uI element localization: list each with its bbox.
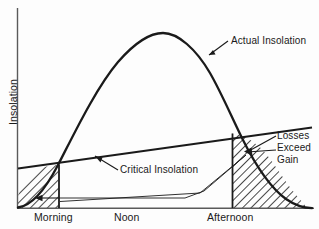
annotation-losses-line-2: Exceed (277, 142, 311, 154)
actual-insolation-curve (18, 33, 312, 208)
annotation-critical-insolation: Critical Insolation (120, 164, 198, 175)
y-axis-label: Insolation (7, 67, 19, 137)
x-tick-label-afternoon: Afternoon (207, 211, 253, 223)
annotation-losses-line-3: Gain (277, 154, 299, 166)
annotation-actual-insolation: Actual Insolation (231, 35, 306, 46)
critical-insolation-leader (95, 156, 118, 170)
x-tick-label-morning: Morning (34, 211, 73, 223)
x-tick-label-noon: Noon (114, 211, 140, 223)
insolation-diagram: Insolation Actual Insolation Critical In… (0, 0, 319, 229)
annotation-losses-line-1: Losses (277, 130, 309, 142)
actual-insolation-leader (209, 41, 228, 55)
